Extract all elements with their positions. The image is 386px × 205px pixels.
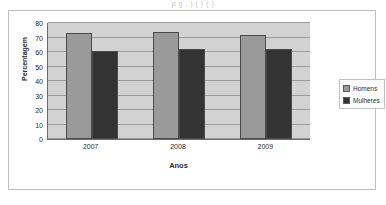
chart-frame: Percentagem 01020304050607080 2007200820… — [8, 10, 376, 190]
x-tick-label-2007: 2007 — [47, 143, 134, 150]
bar-homens-2008 — [153, 32, 179, 139]
x-axis-title: Anos — [47, 161, 310, 170]
bar-mulheres-2008 — [179, 49, 205, 139]
bar-mulheres-2007 — [92, 51, 118, 139]
y-axis-tick-labels: 01020304050607080 — [27, 23, 45, 139]
chart-legend: HomensMulheres — [339, 79, 385, 109]
legend-item-homens: Homens — [343, 83, 380, 93]
bar-homens-2009 — [240, 35, 266, 139]
bar-mulheres-2009 — [266, 49, 292, 139]
page-bleed-text: p g , ) ( ) ( ) — [0, 0, 386, 8]
plot-area — [47, 23, 310, 140]
x-tick-label-2008: 2008 — [134, 143, 221, 150]
bar-homens-2007 — [66, 33, 92, 139]
legend-label: Mulheres — [353, 97, 380, 104]
x-axis-tick-labels: 200720082009 — [47, 143, 310, 155]
legend-item-mulheres: Mulheres — [343, 95, 380, 105]
x-tick-label-2009: 2009 — [222, 143, 309, 150]
bars-layer — [48, 23, 310, 139]
chart-screenshot: p g , ) ( ) ( ) Percentagem 010203040506… — [0, 0, 386, 205]
legend-label: Homens — [353, 85, 377, 92]
legend-swatch-icon — [343, 97, 350, 104]
legend-swatch-icon — [343, 85, 350, 92]
